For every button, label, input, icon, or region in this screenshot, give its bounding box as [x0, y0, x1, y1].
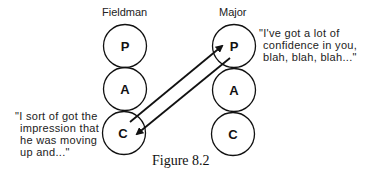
fieldman-quote-line: impression that	[15, 122, 99, 134]
fieldman-quote-line: "I sort of got the	[15, 110, 99, 122]
major-a: A	[229, 83, 239, 98]
major-quote-line: confidence in you,	[259, 39, 357, 51]
major-p: P	[230, 39, 239, 54]
major-quote: "I've got a lot of confidence in you, bl…	[259, 27, 357, 63]
fieldman-c: C	[118, 126, 128, 141]
major-quote-line: "I've got a lot of	[259, 27, 357, 39]
fieldman-p: P	[121, 39, 130, 54]
figure-caption: Figure 8.2	[152, 153, 210, 169]
major-quote-line: blah, blah, blah..."	[259, 51, 357, 63]
fieldman-quote-line: up and..."	[15, 146, 99, 158]
arrow-major-p-to-fieldman-c	[137, 58, 230, 134]
transaction-diagram: Fieldman Major P A C P A C	[0, 0, 367, 173]
fieldman-ego-states: P A C	[103, 25, 147, 155]
fieldman-quote: "I sort of got the impression that he wa…	[15, 110, 99, 158]
fieldman-a: A	[120, 82, 130, 97]
major-c: C	[228, 127, 238, 142]
major-ego-states: P A C	[212, 25, 256, 156]
fieldman-quote-line: he was moving	[15, 134, 99, 146]
